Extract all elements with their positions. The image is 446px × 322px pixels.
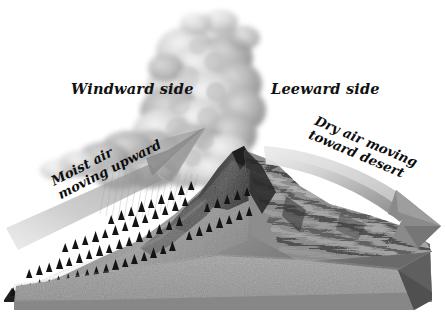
label-leeward-side: Leeward side bbox=[271, 80, 380, 97]
rain-shadow-diagram: Windward side Leeward side Moist air mov… bbox=[0, 0, 446, 322]
label-windward-side: Windward side bbox=[71, 80, 194, 97]
